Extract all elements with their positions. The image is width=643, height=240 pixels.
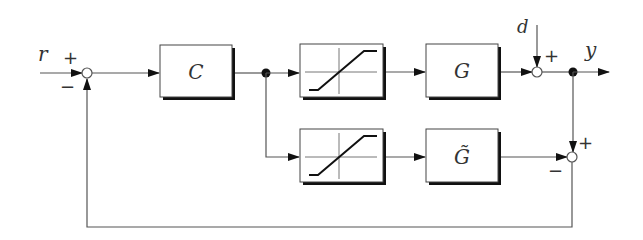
saturation-block-bottom bbox=[300, 129, 386, 185]
output-label: y bbox=[584, 38, 597, 62]
block-diagram: r + − C G d + y bbox=[0, 0, 643, 240]
disturbance-label: d bbox=[517, 16, 529, 37]
model-label: G̃ bbox=[454, 145, 470, 169]
arrow-to-saturation-bottom bbox=[266, 73, 299, 157]
plant-label: G bbox=[454, 59, 470, 83]
plant-block: G bbox=[426, 44, 501, 100]
reference-label: r bbox=[38, 42, 49, 66]
sum-junction-reference bbox=[82, 68, 92, 78]
sum1-plus-sign: + bbox=[63, 47, 78, 68]
sum-junction-disturbance bbox=[532, 67, 542, 77]
sum1-minus-sign: − bbox=[60, 76, 75, 97]
disturbance-input: d + bbox=[517, 16, 559, 67]
sum-junction-model-error bbox=[567, 152, 577, 162]
model-block: G̃ bbox=[426, 129, 501, 185]
controller-block: C bbox=[160, 45, 235, 100]
sum3-plus-sign: + bbox=[578, 132, 593, 153]
saturation-block-top bbox=[300, 44, 386, 100]
sum3-minus-sign: − bbox=[548, 160, 563, 181]
reference-input: r + − bbox=[38, 42, 82, 97]
sum2-plus-sign: + bbox=[544, 45, 559, 66]
controller-label: C bbox=[188, 60, 203, 84]
